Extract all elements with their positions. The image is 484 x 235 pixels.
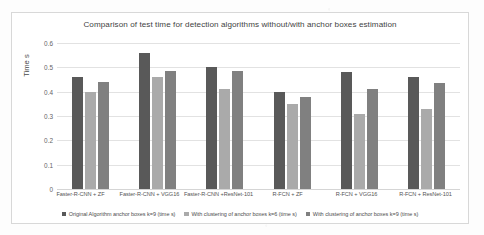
bar[interactable] — [219, 89, 230, 189]
bar[interactable] — [367, 89, 378, 189]
plot-wrapper: 00.10.20.30.40.50.6 Faster-R-CNN + ZFFas… — [46, 43, 460, 223]
bar[interactable] — [139, 53, 150, 189]
chart-title: Comparison of test time for detection al… — [12, 20, 468, 29]
bar[interactable] — [165, 71, 176, 189]
bar[interactable] — [434, 83, 445, 189]
legend-label: Original Algorithm anchor boxes k=9 (tim… — [69, 211, 176, 217]
bar-group — [393, 43, 460, 189]
legend-label: With clustering of anchor boxes k=9 (tim… — [313, 211, 418, 217]
bar[interactable] — [354, 114, 365, 189]
bar[interactable] — [274, 92, 285, 189]
bar[interactable] — [72, 77, 83, 189]
bar-groups — [57, 43, 460, 189]
x-axis-label-4: R-FCN + VGG16 — [322, 191, 391, 197]
plot-area: 00.10.20.30.40.50.6 — [57, 43, 460, 189]
legend-swatch-icon — [62, 212, 67, 217]
bar[interactable] — [98, 82, 109, 189]
bar[interactable] — [421, 109, 432, 189]
legend-item[interactable]: Original Algorithm anchor boxes k=9 (tim… — [62, 211, 176, 217]
bar[interactable] — [152, 77, 163, 189]
y-tick-label: 0.2 — [44, 137, 53, 144]
x-axis-label-5: R-FCN + ResNet-101 — [391, 191, 460, 197]
page-background: Comparison of test time for detection al… — [0, 0, 484, 235]
bar[interactable] — [206, 67, 217, 189]
bar[interactable] — [300, 97, 311, 189]
y-tick-label: 0.4 — [44, 88, 53, 95]
y-tick-label: 0.1 — [44, 161, 53, 168]
y-tick-label: 0.6 — [44, 40, 53, 47]
bar-group — [124, 43, 191, 189]
legend-label: With clustering of anchor boxes k=6 (tim… — [191, 211, 296, 217]
chart-legend: Original Algorithm anchor boxes k=9 (tim… — [12, 211, 468, 217]
legend-item[interactable]: With clustering of anchor boxes k=6 (tim… — [184, 211, 296, 217]
bar[interactable] — [232, 71, 243, 189]
x-axis-labels: Faster-R-CNN + ZFFaster-R-CNN + VGG16Fas… — [46, 191, 460, 197]
bar-group — [57, 43, 124, 189]
bar[interactable] — [287, 104, 298, 189]
x-axis-label-0: Faster-R-CNN + ZF — [46, 191, 115, 197]
x-axis-label-1: Faster-R-CNN + VGG16 — [115, 191, 184, 197]
legend-swatch-icon — [184, 212, 189, 217]
legend-item[interactable]: With clustering of anchor boxes k=9 (tim… — [306, 211, 418, 217]
bar[interactable] — [85, 92, 96, 189]
bar[interactable] — [341, 72, 352, 189]
chart-card: Comparison of test time for detection al… — [11, 12, 469, 224]
y-tick-label: 0.3 — [44, 113, 53, 120]
gridline-0: 0 — [57, 189, 460, 190]
x-axis-label-2: Faster-R-CNN +ResNet-101 — [184, 191, 253, 197]
bar-group — [191, 43, 258, 189]
bar-group — [326, 43, 393, 189]
x-axis-label-3: R-FCN + ZF — [253, 191, 322, 197]
legend-swatch-icon — [306, 212, 311, 217]
bar[interactable] — [408, 77, 419, 189]
y-tick-label: 0.5 — [44, 64, 53, 71]
bar-group — [259, 43, 326, 189]
y-axis-title: Time s — [22, 43, 31, 89]
